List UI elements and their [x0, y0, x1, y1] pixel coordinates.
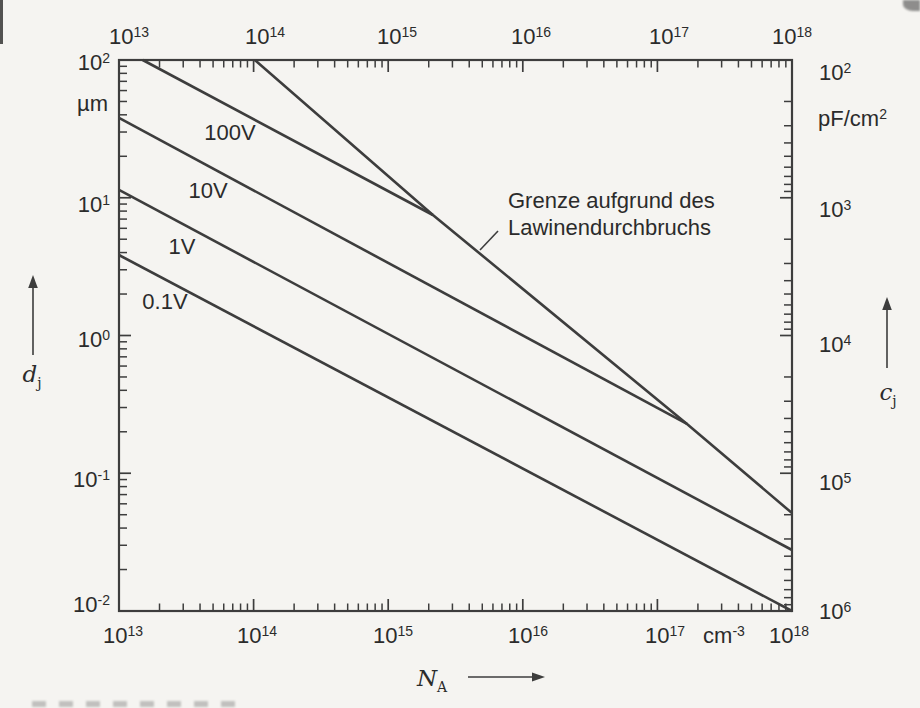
scan-artifact-left-edge — [0, 0, 3, 44]
na-axis-arrow-head — [532, 672, 545, 681]
scan-artifact-caption-cutoff — [32, 701, 237, 707]
dj-axis-arrow-head — [28, 275, 38, 288]
plot-svg — [0, 0, 920, 708]
figure-root: Grenze aufgrund des Lawinendurchbruchs 1… — [0, 0, 920, 708]
series-line-0-1v — [119, 255, 792, 611]
series-line-grenze-aufgrund-des-lawinendurchbruchs — [255, 60, 792, 513]
axis-frame — [119, 60, 792, 611]
annotation-leader-line — [480, 231, 498, 250]
series-line-1v — [119, 190, 792, 550]
scan-artifact-top-right-corner — [903, 0, 920, 11]
series-line-10v — [119, 118, 687, 424]
series-line-100v — [143, 60, 433, 215]
cj-axis-arrow-head — [882, 297, 892, 310]
